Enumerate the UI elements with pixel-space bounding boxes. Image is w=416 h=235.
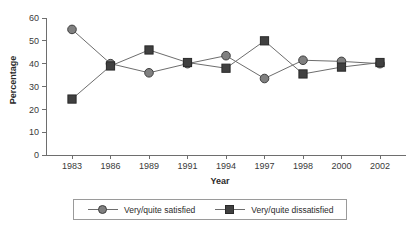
data-point-square [68,95,76,103]
data-point-square [145,46,153,54]
y-tick-label: 10 [29,127,39,137]
data-point-square [106,62,114,70]
x-tick-label: 1991 [177,161,197,171]
x-tick-label: 1986 [100,161,120,171]
data-point-square [337,63,345,71]
x-tick-label: 1998 [293,161,313,171]
x-axis-title-text: Year [186,176,229,186]
x-tick-label: 1989 [139,161,159,171]
data-point-square [376,58,384,66]
legend-item-dissatisfied: Very/quite dissatisfied [215,204,333,216]
plot-area: 0102030405060198319861989199119941997199… [0,0,416,172]
legend-item-satisfied: Very/quite satisfied [88,204,195,216]
data-point-square [260,37,268,45]
x-tick-label: 1997 [254,161,274,171]
data-point-square [299,70,307,78]
y-tick-label: 40 [29,59,39,69]
legend-label-dissatisfied: Very/quite dissatisfied [251,205,333,215]
legend-label-satisfied: Very/quite satisfied [124,205,195,215]
x-tick-label: 2000 [331,161,351,171]
data-point-square [222,64,230,72]
y-tick-label: 20 [29,105,39,115]
x-tick-label: 1983 [62,161,82,171]
data-point-circle [222,51,231,60]
y-tick-label: 60 [29,13,39,23]
circle-marker-icon [88,204,118,216]
y-tick-label: 50 [29,36,39,46]
line-chart: Percentage 01020304050601983198619891991… [0,0,416,235]
x-tick-label: 1994 [216,161,236,171]
y-tick-label: 0 [34,150,39,160]
data-point-square [183,58,191,66]
x-tick-label: 2002 [370,161,390,171]
data-point-circle [299,56,308,65]
x-axis-title: Year [0,176,416,186]
data-point-circle [145,69,154,78]
chart-legend: Very/quite satisfied Very/quite dissatis… [73,199,347,220]
y-tick-label: 30 [29,82,39,92]
data-point-circle [260,74,269,83]
data-point-circle [68,25,77,34]
square-marker-icon [215,204,245,216]
